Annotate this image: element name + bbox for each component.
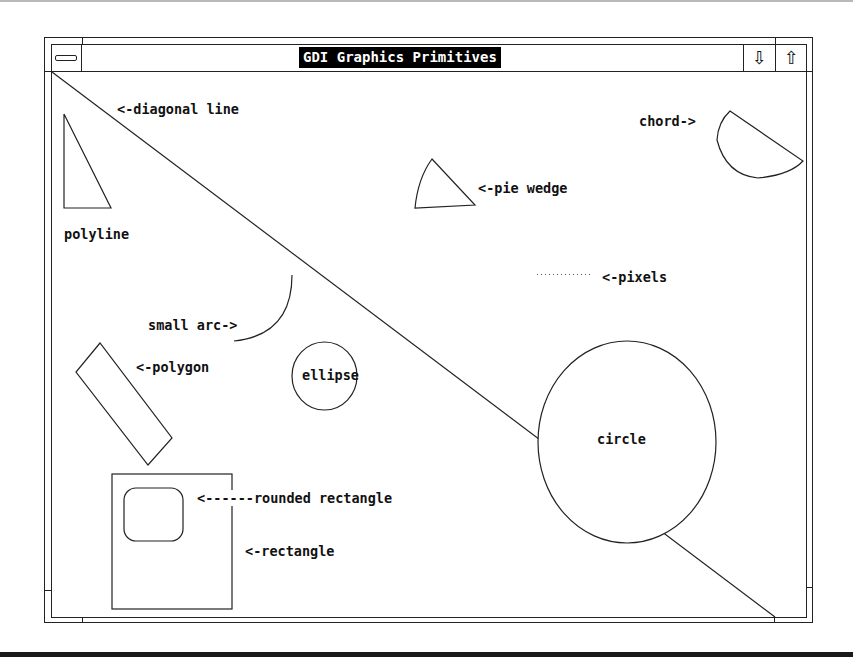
label-small-arc: small arc-> xyxy=(148,317,237,333)
label-rectangle: <-rectangle xyxy=(245,543,334,559)
label-polyline: polyline xyxy=(64,226,129,242)
label-circle: circle xyxy=(597,431,646,447)
chord-shape xyxy=(717,111,803,178)
small-arc-shape xyxy=(234,275,292,341)
pixels-shape xyxy=(537,274,590,275)
label-polygon: <-polygon xyxy=(136,359,209,375)
pie-wedge-shape xyxy=(415,159,475,208)
rounded-rectangle-shape xyxy=(124,488,183,541)
label-ellipse: ellipse xyxy=(302,367,359,383)
polyline-shape xyxy=(64,114,111,208)
label-pie-wedge: <-pie wedge xyxy=(478,180,567,196)
bottom-rule xyxy=(0,652,853,657)
label-rounded-rectangle: <------rounded rectangle xyxy=(197,490,396,506)
diagonal-line xyxy=(52,72,775,617)
label-diagonal-line: <-diagonal line xyxy=(117,101,239,117)
label-chord: chord-> xyxy=(639,113,696,129)
drawing-canvas xyxy=(0,0,853,657)
label-pixels: <-pixels xyxy=(602,269,667,285)
